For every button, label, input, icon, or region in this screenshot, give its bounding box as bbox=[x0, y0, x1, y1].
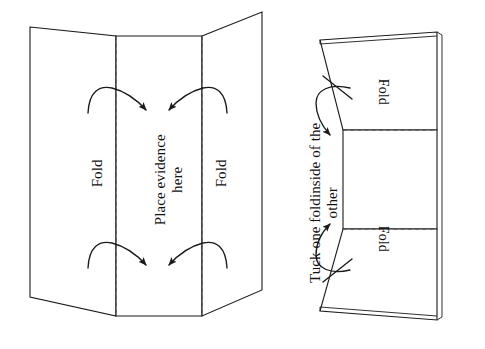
label-place-evidence: Place evidence here bbox=[152, 125, 186, 235]
place-evidence-line-1: Place evidence bbox=[152, 125, 169, 235]
fold-instruction-figure: Fold Fold Place evidence here Fold Fold … bbox=[0, 0, 485, 349]
label-fold-left: Fold bbox=[89, 138, 106, 208]
place-evidence-line-2: here bbox=[169, 125, 186, 235]
diagram-canvas bbox=[0, 0, 485, 349]
tuck-line-2: other bbox=[324, 108, 341, 298]
label-fold-bottom-right: Fold bbox=[375, 209, 391, 269]
tuck-line-1: Tuck one foldinside of the bbox=[307, 108, 324, 298]
label-fold-right: Fold bbox=[213, 138, 230, 208]
label-fold-top-right: Fold bbox=[375, 62, 391, 122]
label-tuck-instruction: Tuck one foldinside of the other bbox=[307, 108, 341, 298]
